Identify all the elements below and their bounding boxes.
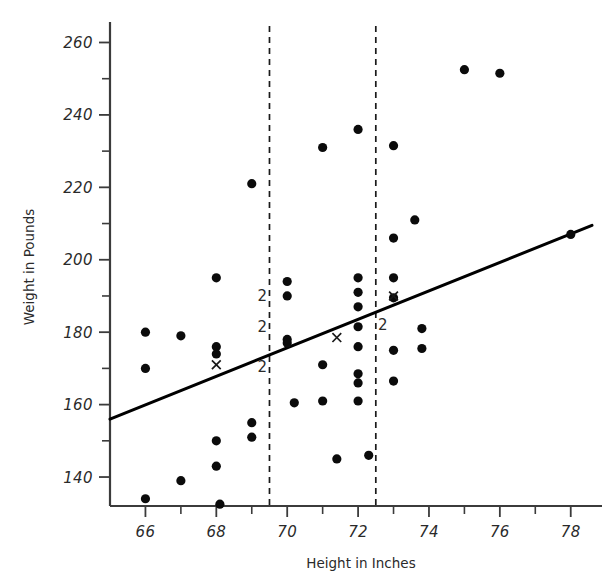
data-point (176, 331, 185, 340)
x-marker (332, 333, 341, 342)
y-tick-label: 180 (63, 324, 93, 342)
scatter-plot-figure: 140160180200220240260 66687072747678 222… (0, 0, 610, 581)
data-point (353, 322, 362, 331)
data-point (318, 396, 327, 405)
data-point (318, 360, 327, 369)
data-point (353, 378, 362, 387)
y-tick-label: 140 (63, 469, 93, 487)
data-point (141, 494, 150, 503)
y-tick-label: 160 (63, 396, 93, 414)
data-point (283, 291, 292, 300)
data-point (389, 233, 398, 242)
data-point (283, 277, 292, 286)
data-point (141, 364, 150, 373)
data-point (332, 454, 341, 463)
regression-line (110, 225, 592, 419)
data-point (389, 346, 398, 355)
reference-lines-group (269, 26, 375, 506)
overlap-count-label: 2 (258, 318, 268, 336)
data-point (141, 328, 150, 337)
y-axis-title: Weight in Pounds (21, 209, 37, 326)
data-point (353, 369, 362, 378)
overlap-count-label: 2 (258, 358, 268, 376)
data-point (176, 476, 185, 485)
y-tick-label: 240 (63, 106, 93, 124)
data-point (290, 398, 299, 407)
data-point (389, 141, 398, 150)
y-tick-label: 220 (63, 179, 93, 197)
data-point (389, 273, 398, 282)
data-point (389, 293, 398, 302)
data-point (247, 179, 256, 188)
data-point (283, 338, 292, 347)
x-axis-ticks (145, 506, 570, 517)
data-point (212, 436, 221, 445)
data-point (353, 125, 362, 134)
x-tick-label: 78 (561, 523, 581, 541)
chart-canvas: 140160180200220240260 66687072747678 222… (0, 0, 610, 581)
data-point (417, 344, 426, 353)
x-tick-label: 72 (348, 523, 368, 541)
data-point (212, 349, 221, 358)
data-point (353, 396, 362, 405)
x-tick-label: 68 (206, 523, 226, 541)
y-tick-label: 260 (63, 34, 93, 52)
x-markers-group (212, 292, 398, 370)
data-point (566, 230, 575, 239)
data-point (247, 433, 256, 442)
data-point (353, 288, 362, 297)
data-point (410, 215, 419, 224)
data-points-group (141, 65, 575, 509)
x-tick-label: 74 (419, 523, 439, 541)
y-tick-label: 200 (63, 251, 93, 269)
y-axis-tick-labels: 140160180200220240260 (63, 34, 93, 487)
y-axis-ticks (99, 42, 110, 477)
data-point (364, 451, 373, 460)
data-point (353, 342, 362, 351)
data-point (417, 324, 426, 333)
data-point (215, 500, 224, 509)
data-point (353, 302, 362, 311)
data-point (212, 462, 221, 471)
x-tick-label: 66 (135, 523, 155, 541)
x-axis-tick-labels: 66687072747678 (135, 523, 580, 541)
data-point (318, 143, 327, 152)
data-point (495, 69, 504, 78)
overlap-count-label: 2 (378, 316, 388, 334)
x-tick-label: 76 (490, 523, 510, 541)
data-point (389, 376, 398, 385)
x-tick-label: 70 (277, 523, 297, 541)
overlap-count-label: 2 (258, 287, 268, 305)
x-axis-title: Height in Inches (306, 555, 415, 571)
data-point (353, 273, 362, 282)
x-marker (212, 360, 221, 369)
data-point (212, 273, 221, 282)
data-point (460, 65, 469, 74)
axes-group (110, 22, 602, 506)
data-point (247, 418, 256, 427)
